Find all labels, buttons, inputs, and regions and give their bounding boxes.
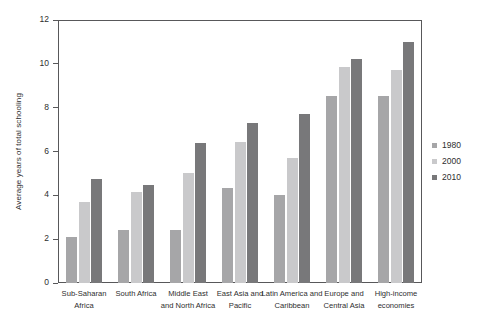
bar-2010 bbox=[195, 143, 206, 283]
bar-chart-figure: Average years of total schooling 0246810… bbox=[0, 0, 495, 326]
bar-1980 bbox=[274, 195, 285, 283]
legend-swatch-icon bbox=[432, 143, 437, 148]
bar-2010 bbox=[299, 114, 310, 283]
bar-2010 bbox=[403, 42, 414, 283]
legend-label: 1980 bbox=[442, 140, 461, 150]
bar-group bbox=[66, 20, 102, 283]
x-axis-label: High-incomeeconomies bbox=[362, 288, 430, 311]
bar-1980 bbox=[222, 188, 233, 283]
bar-2000 bbox=[235, 142, 246, 283]
x-axis-labels: Sub-SaharanAfricaSouth AfricaMiddle East… bbox=[58, 288, 422, 322]
bar-2000 bbox=[79, 202, 90, 283]
y-tick-label: 8 bbox=[44, 102, 49, 113]
legend-label: 2000 bbox=[442, 156, 461, 166]
y-tick-label: 4 bbox=[44, 189, 49, 200]
y-axis-title: Average years of total schooling bbox=[12, 20, 26, 283]
bar-1980 bbox=[118, 230, 129, 283]
bar-2000 bbox=[391, 70, 402, 283]
bar-1980 bbox=[66, 237, 77, 283]
bar-1980 bbox=[378, 96, 389, 283]
bar-group bbox=[326, 20, 362, 283]
bar-group bbox=[274, 20, 310, 283]
bars-layer bbox=[58, 20, 422, 283]
bar-2000 bbox=[287, 158, 298, 283]
bar-1980 bbox=[326, 96, 337, 283]
x-axis-label-line: High-income bbox=[362, 288, 430, 300]
legend-swatch-icon bbox=[432, 175, 437, 180]
bar-2000 bbox=[339, 67, 350, 283]
bar-2010 bbox=[351, 59, 362, 283]
bar-group bbox=[378, 20, 414, 283]
legend-item[interactable]: 2010 bbox=[432, 169, 490, 185]
legend-item[interactable]: 1980 bbox=[432, 137, 490, 153]
bar-group bbox=[222, 20, 258, 283]
y-tick-label: 6 bbox=[44, 146, 49, 157]
bar-2000 bbox=[131, 192, 142, 283]
bar-2010 bbox=[143, 185, 154, 283]
bar-2010 bbox=[91, 179, 102, 283]
bar-2010 bbox=[247, 123, 258, 283]
bar-group bbox=[118, 20, 154, 283]
x-axis-label-line: Africa bbox=[50, 300, 118, 312]
y-tick-label: 12 bbox=[40, 14, 49, 25]
bar-group bbox=[170, 20, 206, 283]
chart-legend: 198020002010 bbox=[432, 137, 490, 185]
legend-item[interactable]: 2000 bbox=[432, 153, 490, 169]
legend-label: 2010 bbox=[442, 172, 461, 182]
bar-2000 bbox=[183, 173, 194, 283]
bar-1980 bbox=[170, 230, 181, 283]
y-tick-label: 0 bbox=[44, 277, 49, 288]
legend-swatch-icon bbox=[432, 159, 437, 164]
y-tick-label: 10 bbox=[40, 58, 49, 69]
x-axis-label-line: economies bbox=[362, 300, 430, 312]
y-tick-label: 2 bbox=[44, 233, 49, 244]
